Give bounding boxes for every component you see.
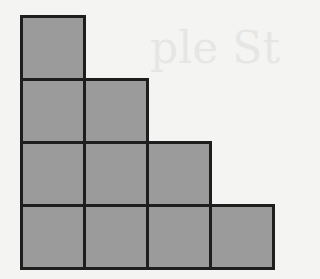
grid-square (83, 204, 149, 270)
grid-square (146, 204, 212, 270)
grid-square (20, 15, 86, 81)
grid-square (20, 204, 86, 270)
grid-square (20, 141, 86, 207)
grid-square (146, 141, 212, 207)
grid-square (209, 204, 275, 270)
grid-square (20, 78, 86, 144)
bleed-through-text: ple St (150, 22, 280, 73)
grid-square (83, 141, 149, 207)
grid-square (83, 78, 149, 144)
